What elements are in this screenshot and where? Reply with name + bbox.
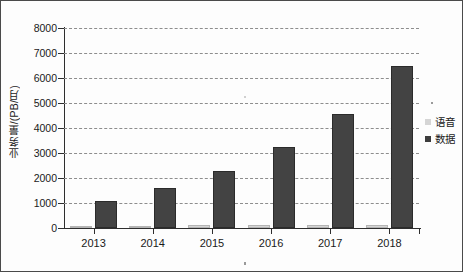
y-axis-tick-label: 8000 [13, 22, 57, 34]
x-axis-tick [94, 228, 95, 234]
bar-group [123, 28, 182, 228]
y-axis-tick-label: 0 [13, 222, 57, 234]
legend-item-语音[interactable]: 语音 [425, 113, 463, 130]
scan-speck [244, 262, 246, 265]
legend-item-数据[interactable]: 数据 [425, 130, 463, 147]
bar-数据-2017 [332, 114, 354, 228]
bar-数据-2014 [154, 188, 176, 228]
bar-group [301, 28, 360, 228]
y-axis-tick-label: 6000 [13, 72, 57, 84]
bar-group [360, 28, 419, 228]
x-axis-line [64, 228, 421, 229]
bar-数据-2016 [273, 147, 295, 228]
legend-swatch-icon [425, 136, 431, 142]
x-axis-tick [389, 228, 390, 234]
legend-swatch-icon [425, 119, 431, 125]
x-axis-tick [330, 228, 331, 234]
x-axis-tick-label: 2018 [359, 237, 419, 249]
y-axis-tick-label: 5000 [13, 97, 57, 109]
y-axis-tick-label: 4000 [13, 122, 57, 134]
x-axis-tick-label: 2015 [182, 237, 242, 249]
legend: 语音数据 [425, 113, 463, 147]
bar-group [182, 28, 241, 228]
x-axis-tick-label: 2014 [123, 237, 183, 249]
scan-speck [244, 96, 246, 98]
bar-group [242, 28, 301, 228]
x-axis-tick-label: 2016 [241, 237, 301, 249]
x-axis-tick [419, 228, 420, 234]
legend-label: 数据 [435, 131, 455, 146]
x-axis-tick-label: 2017 [300, 237, 360, 249]
x-axis-tick [271, 228, 272, 234]
x-axis-tick [153, 228, 154, 234]
bar-数据-2018 [391, 66, 413, 229]
bar-数据-2015 [213, 171, 235, 229]
legend-label: 语音 [435, 114, 455, 129]
x-axis-tick [212, 228, 213, 234]
bar-group [64, 28, 123, 228]
bar-chart-figure: 业务量/(PB/月) 01000200030004000500060007000… [0, 0, 463, 272]
y-axis-tick-label: 2000 [13, 172, 57, 184]
scan-speck [431, 102, 433, 104]
y-axis-tick-label: 3000 [13, 147, 57, 159]
plot-area [64, 28, 419, 228]
y-axis-tick-label: 1000 [13, 197, 57, 209]
y-axis-tick-label: 7000 [13, 47, 57, 59]
bar-数据-2013 [95, 201, 117, 229]
x-axis-tick-label: 2013 [64, 237, 124, 249]
